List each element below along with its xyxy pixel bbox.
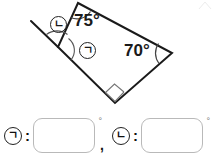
corner-artifact-icon [198,1,212,10]
angle-label-70: 70° [124,42,150,59]
answer-input-nieun[interactable] [141,118,203,153]
answer-group-nieun: ㄴ : ° [112,112,203,159]
geometry-figure: 75° 70° ㄴ ㄱ [0,0,213,112]
answer-colon-nieun: : [133,128,138,143]
answer-box-wrap-nieun: ° [141,118,203,153]
answer-separator: , [100,138,104,152]
degree-symbol-giyeok: ° [98,117,102,126]
worksheet-page: 75° 70° ㄴ ㄱ ㄱ : ° , ㄴ : ° [0,0,213,159]
figure-marker-nieun: ㄴ [50,16,67,33]
answer-marker-giyeok: ㄱ [4,127,22,145]
answer-row: ㄱ : ° , ㄴ : ° [0,112,213,159]
answer-group-giyeok: ㄱ : ° [4,112,95,159]
angle-label-75: 75° [74,12,100,29]
right-angle-marker-top [106,84,125,93]
figure-marker-giyeok: ㄱ [79,42,96,59]
figure-svg [0,0,213,112]
answer-marker-nieun: ㄴ [112,127,130,145]
answer-input-giyeok[interactable] [33,118,95,153]
answer-box-wrap-giyeok: ° [33,118,95,153]
degree-symbol-nieun: ° [206,117,210,126]
answer-colon-giyeok: : [25,128,30,143]
